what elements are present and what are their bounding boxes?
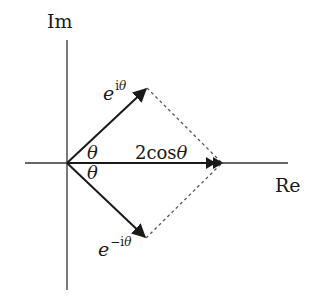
vector-label-2cos-theta: 2cosθ <box>135 144 187 162</box>
double-arrowhead-icon <box>206 157 223 169</box>
exponent-superscript: iθ <box>115 79 126 93</box>
complex-plane-diagram: Im Re eiθ e−iθ θ θ 2cosθ <box>0 0 309 305</box>
exponent-base: e <box>103 82 114 104</box>
exponent-superscript: −iθ <box>110 235 131 249</box>
vector-label-e-minus-i-theta: e−iθ <box>98 240 131 259</box>
sum-label-theta: θ <box>177 142 188 163</box>
exponent-base: e <box>98 238 109 260</box>
real-axis-label: Re <box>275 176 301 195</box>
imaginary-axis-label: Im <box>47 12 73 31</box>
angle-label-upper: θ <box>87 144 98 162</box>
angle-label-lower: θ <box>87 164 98 182</box>
vector-e-minus-i-theta <box>67 163 145 237</box>
vector-label-e-i-theta: eiθ <box>103 84 126 103</box>
dashed-line-lower <box>146 163 222 238</box>
sum-label-prefix: 2cos <box>135 142 177 163</box>
